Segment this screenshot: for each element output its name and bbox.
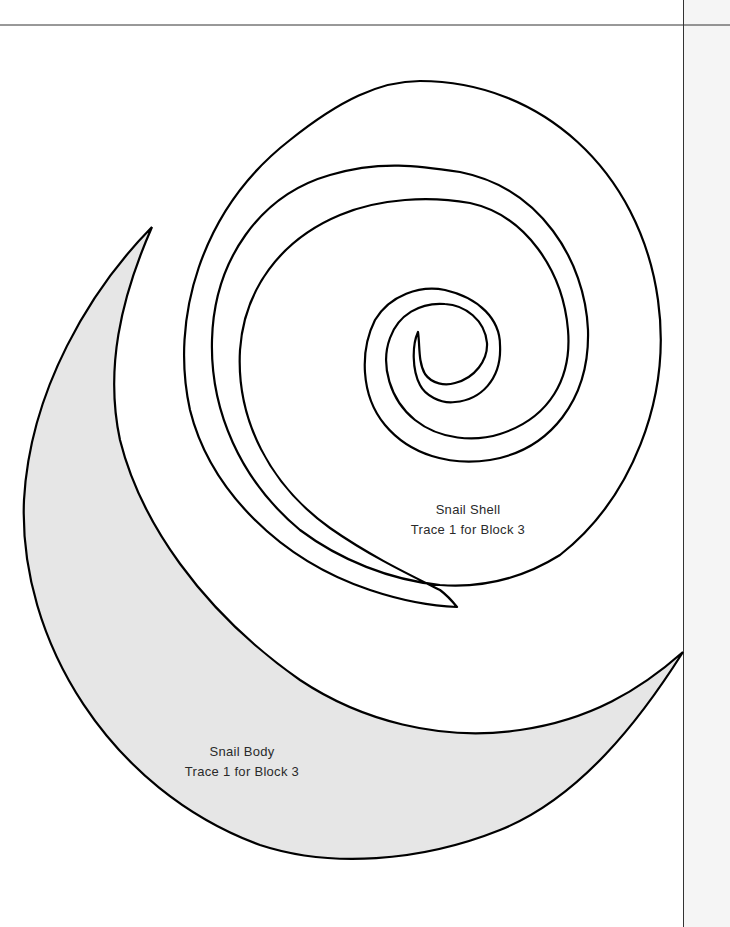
shell-instruction: Trace 1 for Block 3 (411, 520, 525, 540)
pattern-artwork (0, 0, 730, 927)
body-label: Snail Body Trace 1 for Block 3 (185, 742, 299, 782)
shell-label: Snail Shell Trace 1 for Block 3 (411, 500, 525, 540)
body-title: Snail Body (185, 742, 299, 762)
body-instruction: Trace 1 for Block 3 (185, 762, 299, 782)
shell-title: Snail Shell (411, 500, 525, 520)
pattern-page: Snail Shell Trace 1 for Block 3 Snail Bo… (0, 0, 730, 927)
